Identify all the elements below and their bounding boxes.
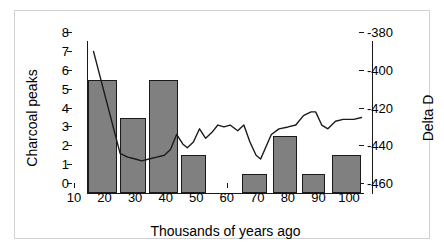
line-series-delta-d (88, 42, 363, 193)
y-axis-left-tick-label: 5 (62, 81, 69, 96)
y-axis-left-title: Charcoal peaks (23, 42, 41, 193)
y-axis-left-tick-label: 7 (62, 43, 69, 58)
plot-area (88, 42, 363, 193)
y-axis-left-tick-label: 8 (62, 25, 69, 40)
x-axis-tick (74, 183, 75, 188)
y-axis-right-title-text: Delta D (420, 94, 436, 141)
x-axis-title: Thousands of years ago (88, 223, 363, 239)
chart-figure: Charcoal peaks Delta D 012345678 -460-44… (0, 0, 444, 250)
y-axis-right-tick-label: -440 (367, 138, 393, 153)
y-axis-right-tick (359, 32, 364, 33)
y-axis-left-tick-label: 4 (62, 100, 69, 115)
y-axis-left-tick-label: 2 (62, 138, 69, 153)
delta-d-polyline (94, 51, 362, 160)
y-axis-left-tick-label: 6 (62, 62, 69, 77)
figure-frame: Charcoal peaks Delta D 012345678 -460-44… (14, 10, 430, 239)
y-axis-left-tick-label: 0 (62, 176, 69, 191)
y-axis-right-tick-label: -380 (367, 25, 393, 40)
y-axis-left-tick-label: 3 (62, 119, 69, 134)
x-axis-tick-label: 10 (67, 190, 81, 205)
y-axis-right-title: Delta D (419, 42, 437, 193)
y-axis-right-tick-label: -420 (367, 100, 393, 115)
y-axis-right-tick-label: -400 (367, 62, 393, 77)
y-axis-left-tick-label: 1 (62, 157, 69, 172)
y-axis-left-title-text: Charcoal peaks (24, 69, 40, 166)
y-axis-right-tick-label: -460 (367, 176, 393, 191)
